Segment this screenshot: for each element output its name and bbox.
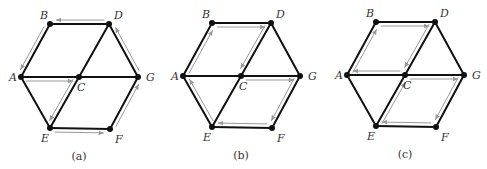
trail-arrow	[382, 82, 406, 124]
graph-edge-CE	[376, 75, 405, 126]
panel-caption: (c)	[398, 148, 413, 161]
trail-arrow	[218, 123, 267, 124]
graph-edge-DG	[271, 23, 300, 76]
vertex-A	[18, 74, 24, 80]
graph-edge-DG	[435, 22, 464, 75]
graph-edge-GF	[110, 77, 138, 129]
vertex-F	[269, 125, 275, 131]
panel-caption: (b)	[233, 149, 249, 162]
vertex-label-B: B	[201, 8, 210, 21]
trail-arrow	[241, 25, 266, 68]
trail-arrow	[405, 24, 430, 67]
graph-edge-FE	[212, 127, 272, 128]
vertex-D	[432, 19, 438, 25]
vertex-E	[209, 124, 215, 130]
graph-edge-AB	[21, 24, 50, 77]
vertex-label-G: G	[472, 69, 481, 82]
graph-edge-DC	[241, 23, 271, 76]
vertex-label-D: D	[439, 7, 449, 20]
vertex-E	[47, 125, 53, 131]
vertex-G	[297, 73, 303, 79]
vertex-label-C: C	[403, 79, 412, 92]
vertex-label-D: D	[113, 9, 123, 22]
graph-edge-DC	[405, 22, 435, 75]
graph-edge-DC	[79, 24, 109, 77]
vertex-label-A: A	[170, 70, 179, 83]
trail-arrow	[382, 122, 431, 123]
trail-arrow	[49, 79, 73, 121]
vertex-C	[76, 74, 82, 80]
graph-edge-GF	[272, 76, 300, 128]
vertex-F	[433, 124, 439, 130]
vertex-label-E: E	[202, 131, 211, 144]
vertex-A	[344, 72, 350, 78]
vertex-D	[268, 20, 274, 26]
vertex-label-A: A	[334, 69, 343, 82]
trail-arrow	[271, 78, 294, 121]
vertex-C	[238, 73, 244, 79]
vertex-G	[135, 74, 141, 80]
vertex-E	[373, 123, 379, 129]
vertex-label-C: C	[239, 80, 248, 93]
graph-edge-CE	[50, 77, 79, 128]
vertex-label-B: B	[365, 7, 374, 20]
vertex-F	[107, 126, 113, 132]
vertex-C	[402, 72, 408, 78]
trail-arrow	[116, 84, 139, 127]
graph-edge-AB	[347, 22, 376, 75]
trail-arrow	[115, 27, 139, 70]
trail-arrow	[189, 30, 213, 73]
graph-edge-FE	[50, 128, 110, 129]
vertex-label-C: C	[77, 81, 86, 94]
graph-edge-CE	[212, 76, 241, 127]
trail-arrow	[353, 29, 377, 72]
graph-edge-EA	[347, 75, 376, 126]
vertex-D	[106, 21, 112, 27]
vertex-A	[180, 73, 186, 79]
hexagon-graph-figure: ABCDEFG(a) ABCDEFG(b) ABCDEFG(c)	[0, 0, 487, 169]
vertex-label-E: E	[40, 132, 49, 145]
trail-arrow	[189, 79, 213, 121]
vertex-label-G: G	[308, 70, 317, 83]
vertex-G	[461, 72, 467, 78]
vertex-label-A: A	[8, 71, 17, 84]
vertex-label-E: E	[366, 130, 375, 143]
vertex-label-B: B	[39, 9, 48, 22]
graph-edge-EA	[183, 76, 212, 127]
panel-b: ABCDEFG(b)	[170, 8, 317, 162]
panel-a: ABCDEFG(a)	[8, 9, 155, 163]
panel-caption: (a)	[71, 150, 86, 163]
vertex-label-D: D	[275, 8, 285, 21]
panel-c: ABCDEFG(c)	[334, 7, 481, 161]
graph-edge-GF	[436, 75, 464, 127]
graph-edge-EA	[21, 77, 50, 128]
vertex-label-F: F	[114, 133, 123, 146]
vertex-label-G: G	[146, 71, 155, 84]
graph-edge-FE	[376, 126, 436, 127]
graph-edge-AB	[183, 23, 212, 76]
trail-arrow	[435, 77, 458, 120]
graph-edge-DG	[109, 24, 138, 77]
trail-arrow	[55, 132, 104, 133]
trail-arrow	[20, 26, 44, 69]
vertex-label-F: F	[276, 132, 285, 145]
vertex-label-F: F	[440, 131, 449, 144]
